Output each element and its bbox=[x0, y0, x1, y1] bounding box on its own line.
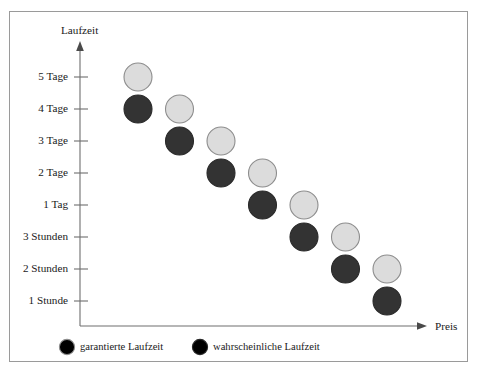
legend-marker-garantierte bbox=[59, 339, 74, 354]
y-tick-label-2-tage: 2 Tage bbox=[38, 166, 68, 178]
data-point bbox=[124, 63, 152, 91]
series-garantierte-laufzeit bbox=[124, 63, 401, 283]
y-axis-arrow-icon bbox=[76, 41, 84, 51]
series-wahrscheinliche-laufzeit bbox=[124, 95, 401, 315]
data-point bbox=[207, 159, 235, 187]
y-tick-label-3-tage: 3 Tage bbox=[38, 134, 68, 146]
y-tick-label-2-stunden: 2 Stunden bbox=[23, 262, 68, 274]
chart-legend: garantierte Laufzeit wahrscheinliche Lau… bbox=[59, 339, 319, 354]
data-point bbox=[373, 255, 401, 283]
y-axis-title: Laufzeit bbox=[61, 24, 99, 36]
y-axis-ticks: 5 Tage 4 Tage 3 Tage 2 Tage 1 Tag 3 Stun… bbox=[23, 70, 88, 306]
legend-marker-wahrscheinliche bbox=[192, 339, 207, 354]
x-axis-arrow-icon bbox=[417, 322, 427, 330]
data-point bbox=[290, 191, 318, 219]
y-tick-label-3-stunden: 3 Stunden bbox=[23, 230, 68, 242]
chart-figure: Laufzeit Preis 5 Tage 4 Tage 3 Tage 2 Ta… bbox=[9, 11, 468, 362]
data-point bbox=[332, 223, 360, 251]
data-point bbox=[124, 95, 152, 123]
data-point bbox=[166, 127, 194, 155]
data-point bbox=[332, 255, 360, 283]
legend-label-garantierte: garantierte Laufzeit bbox=[80, 341, 163, 352]
x-axis-title: Preis bbox=[435, 320, 457, 332]
data-point bbox=[373, 287, 401, 315]
y-tick-label-5-tage: 5 Tage bbox=[38, 70, 68, 82]
y-axis bbox=[76, 41, 84, 326]
y-tick-label-1-stunde: 1 Stunde bbox=[29, 294, 69, 306]
data-point bbox=[249, 159, 277, 187]
data-point bbox=[249, 191, 277, 219]
chart-plot-area: Laufzeit Preis 5 Tage 4 Tage 3 Tage 2 Ta… bbox=[10, 12, 467, 361]
y-tick-label-1-tag: 1 Tag bbox=[43, 198, 68, 210]
data-point bbox=[290, 223, 318, 251]
data-point bbox=[207, 127, 235, 155]
y-tick-label-4-tage: 4 Tage bbox=[38, 102, 68, 114]
legend-label-wahrscheinliche: wahrscheinliche Laufzeit bbox=[213, 341, 320, 352]
x-axis bbox=[80, 322, 427, 330]
scatter-chart-svg: Laufzeit Preis 5 Tage 4 Tage 3 Tage 2 Ta… bbox=[10, 12, 467, 361]
data-point bbox=[166, 95, 194, 123]
